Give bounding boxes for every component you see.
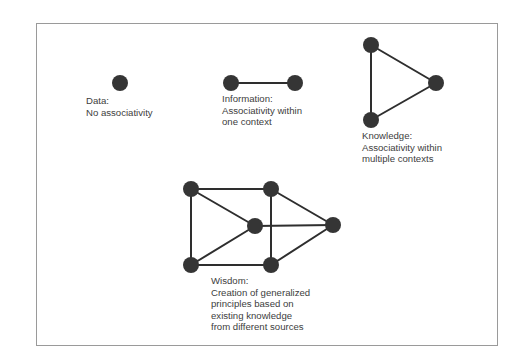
data-graph [112,75,128,91]
data-caption-title: Data: [86,95,153,107]
wisdom-caption-title: Wisdom: [211,275,310,287]
information-caption-title: Information: [222,93,302,105]
knowledge-edge [371,83,436,120]
wisdom-caption-line: Creation of generalized [211,287,310,299]
wisdom-caption-line: principles based on [211,298,310,310]
information-node-left [223,75,239,91]
wisdom-edge [191,226,255,265]
wisdom-node-top-right [263,181,279,197]
information-node-right [287,75,303,91]
knowledge-node-bottom [363,112,379,128]
wisdom-caption-line: from different sources [211,321,310,333]
wisdom-node-bottom-left [183,257,199,273]
knowledge-caption: Knowledge: Associativity within multiple… [362,130,442,165]
information-graph [223,75,303,91]
knowledge-caption-title: Knowledge: [362,130,442,142]
knowledge-node-right [428,75,444,91]
data-node [112,75,128,91]
information-caption: Information: Associativity within one co… [222,93,302,128]
knowledge-edge [371,45,436,83]
wisdom-caption: Wisdom: Creation of generalized principl… [211,275,310,333]
data-caption: Data: No associativity [86,95,153,118]
data-caption-line: No associativity [86,107,153,119]
wisdom-caption-line: existing knowledge [211,310,310,322]
wisdom-edge [255,225,333,226]
knowledge-caption-line: Associativity within [362,142,442,154]
wisdom-graph [183,181,341,273]
wisdom-node-top-left [183,181,199,197]
information-caption-line: Associativity within [222,105,302,117]
wisdom-edge [191,189,255,226]
wisdom-node-center [247,218,263,234]
wisdom-edge [271,225,333,265]
wisdom-node-right [325,217,341,233]
knowledge-node-top [363,37,379,53]
wisdom-edge [271,189,333,225]
knowledge-graph [363,37,444,128]
information-caption-line: one context [222,116,302,128]
wisdom-node-bottom-right [263,257,279,273]
knowledge-caption-line: multiple contexts [362,153,442,165]
